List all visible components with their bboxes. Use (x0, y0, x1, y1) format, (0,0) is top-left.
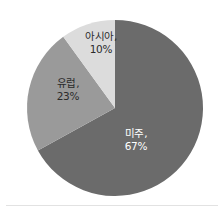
pie-chart-figure: 아시아, 10% 유럽, 23% 미주, 67% (0, 0, 224, 219)
bottom-divider (6, 205, 218, 206)
pie-chart-svg (0, 0, 224, 219)
